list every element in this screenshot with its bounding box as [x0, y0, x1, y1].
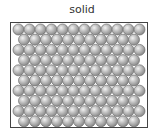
particle-sphere: [35, 24, 46, 35]
particle-sphere: [112, 106, 123, 117]
particle-sphere: [118, 55, 129, 66]
particle-sphere: [46, 106, 57, 117]
particle-sphere: [46, 85, 57, 96]
particle-sphere: [129, 34, 140, 45]
particle-sphere: [74, 95, 85, 106]
particle-sphere: [41, 75, 52, 86]
particle-sphere: [101, 24, 112, 35]
particle-sphere: [96, 55, 107, 66]
particle-sphere: [19, 75, 30, 86]
particle-sphere: [46, 44, 57, 55]
particle-sphere: [46, 65, 57, 76]
particle-sphere: [90, 106, 101, 117]
particle-sphere: [96, 116, 107, 127]
particle-sphere: [24, 44, 35, 55]
particle-sphere: [101, 44, 112, 55]
particle-sphere: [118, 95, 129, 106]
particle-sphere: [41, 95, 52, 106]
container-box: [10, 22, 148, 128]
particle-sphere: [74, 116, 85, 127]
particle-sphere: [96, 75, 107, 86]
particle-sphere: [101, 65, 112, 76]
particle-sphere: [13, 85, 24, 96]
particle-sphere: [52, 34, 63, 45]
particle-sphere: [118, 116, 129, 127]
particle-sphere: [107, 34, 118, 45]
particle-sphere: [24, 24, 35, 35]
particle-sphere: [79, 65, 90, 76]
particle-sphere: [85, 75, 96, 86]
particle-sphere: [30, 75, 41, 86]
particle-sphere: [35, 65, 46, 76]
particle-sphere: [63, 116, 74, 127]
particle-sphere: [35, 85, 46, 96]
particle-sphere: [68, 65, 79, 76]
particle-sphere: [79, 106, 90, 117]
particle-sphere: [19, 34, 30, 45]
particle-sphere: [57, 106, 68, 117]
particle-sphere: [13, 65, 24, 76]
particle-sphere: [112, 65, 123, 76]
particle-sphere: [13, 24, 24, 35]
particle-sphere: [68, 106, 79, 117]
particle-sphere: [19, 95, 30, 106]
particle-sphere: [52, 75, 63, 86]
particle-sphere: [30, 116, 41, 127]
particles-group: [13, 24, 145, 127]
particle-sphere: [41, 34, 52, 45]
particle-sphere: [19, 116, 30, 127]
particle-sphere: [134, 65, 145, 76]
particle-sphere: [107, 95, 118, 106]
particle-sphere: [112, 44, 123, 55]
particle-sphere: [41, 116, 52, 127]
particle-sphere: [52, 55, 63, 66]
particle-sphere: [118, 34, 129, 45]
particle-sphere: [79, 24, 90, 35]
particle-sphere: [35, 106, 46, 117]
particle-sphere: [85, 55, 96, 66]
particle-sphere: [79, 85, 90, 96]
particle-sphere: [123, 44, 134, 55]
particle-sphere: [57, 44, 68, 55]
particle-sphere: [68, 44, 79, 55]
particle-sphere: [46, 24, 57, 35]
particle-sphere: [63, 55, 74, 66]
particle-sphere: [90, 65, 101, 76]
particle-sphere: [123, 106, 134, 117]
particle-sphere: [96, 95, 107, 106]
particle-sphere: [96, 34, 107, 45]
particle-sphere: [24, 106, 35, 117]
particle-sphere: [85, 95, 96, 106]
particle-sphere: [129, 75, 140, 86]
particle-sphere: [134, 24, 145, 35]
particle-sphere: [112, 85, 123, 96]
particle-lattice: [11, 23, 147, 127]
particle-sphere: [129, 95, 140, 106]
particle-sphere: [68, 24, 79, 35]
particle-sphere: [129, 116, 140, 127]
particle-sphere: [107, 116, 118, 127]
particle-sphere: [74, 55, 85, 66]
particle-sphere: [90, 24, 101, 35]
particle-sphere: [63, 75, 74, 86]
particle-sphere: [134, 44, 145, 55]
particle-sphere: [30, 95, 41, 106]
particle-sphere: [41, 55, 52, 66]
particle-sphere: [57, 85, 68, 96]
diagram-title: solid: [0, 3, 164, 17]
particle-sphere: [123, 85, 134, 96]
particle-sphere: [123, 24, 134, 35]
particle-sphere: [30, 55, 41, 66]
particle-sphere: [107, 55, 118, 66]
particle-sphere: [24, 85, 35, 96]
particle-sphere: [63, 95, 74, 106]
particle-sphere: [118, 75, 129, 86]
particle-sphere: [24, 65, 35, 76]
particle-sphere: [112, 24, 123, 35]
particle-sphere: [74, 75, 85, 86]
particle-sphere: [85, 34, 96, 45]
particle-sphere: [107, 75, 118, 86]
particle-sphere: [30, 34, 41, 45]
particle-sphere: [101, 106, 112, 117]
particle-sphere: [35, 44, 46, 55]
